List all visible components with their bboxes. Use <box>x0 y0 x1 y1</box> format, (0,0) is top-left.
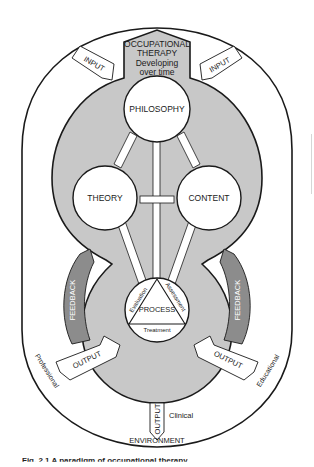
svg-text:FEEDBACK: FEEDBACK <box>68 280 77 320</box>
svg-text:THERAPY: THERAPY <box>137 48 177 58</box>
svg-text:FEEDBACK: FEEDBACK <box>233 280 242 320</box>
occupational-therapy-paradigm-diagram: OCCUPATIONAL THERAPY Developing over tim… <box>0 0 314 467</box>
svg-text:THEORY: THEORY <box>87 193 123 203</box>
svg-text:CONTENT: CONTENT <box>188 193 229 203</box>
philosophy-node: PHILOSOPHY <box>124 76 190 142</box>
clinical-label: Clinical <box>169 411 194 420</box>
svg-text:PROCESS: PROCESS <box>139 305 176 314</box>
output-arrow-bottom: OUTPUT <box>150 403 164 440</box>
process-node: PROCESS Evaluation Assessment Treatment <box>125 278 189 342</box>
svg-text:OUTPUT: OUTPUT <box>153 403 162 434</box>
svg-text:PHILOSOPHY: PHILOSOPHY <box>129 104 185 114</box>
environment-label: ENVIRONMENT <box>129 436 185 445</box>
theory-node: THEORY <box>73 166 137 230</box>
content-node: CONTENT <box>177 166 241 230</box>
treatment-label: Treatment <box>143 327 170 333</box>
scan-edge-artifact <box>311 134 312 194</box>
